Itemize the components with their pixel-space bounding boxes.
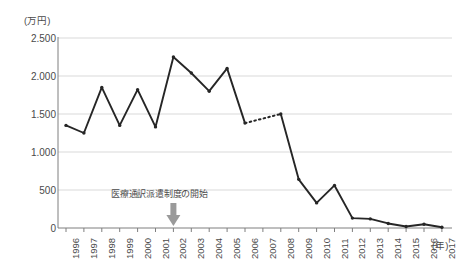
- x-axis-tick-label: 1998: [106, 238, 117, 259]
- x-axis-tick-label: 2013: [374, 238, 385, 259]
- x-axis-tick-label: 2016: [428, 238, 439, 259]
- x-axis-tick-label: 2009: [303, 238, 314, 259]
- x-axis-tick-label: 2010: [321, 238, 332, 259]
- x-axis-tick-label: 1997: [88, 238, 99, 259]
- x-axis-tick-labels: 1996199719981999200020012002200320042005…: [0, 0, 465, 278]
- line-chart: (万円) (年) 05001.0001.5002.0002.500 199619…: [0, 0, 465, 278]
- x-axis-tick-label: 2014: [392, 238, 403, 259]
- annotation-label: 医療通訳派遣制度の開始: [111, 187, 208, 200]
- x-axis-tick-label: 2012: [356, 238, 367, 259]
- x-axis-tick-label: 2002: [177, 238, 188, 259]
- x-axis-tick-label: 1999: [124, 238, 135, 259]
- x-axis-tick-label: 2011: [339, 239, 350, 259]
- x-axis-tick-label: 2004: [213, 238, 224, 259]
- x-axis-tick-label: 2008: [285, 238, 296, 259]
- x-axis-tick-label: 2003: [195, 238, 206, 259]
- x-axis-tick-label: 2005: [231, 238, 242, 259]
- x-axis-tick-label: 2001: [160, 238, 171, 259]
- x-axis-tick-label: 2007: [267, 238, 278, 259]
- x-axis-tick-label: 1996: [70, 238, 81, 259]
- x-axis-tick-label: 2015: [410, 238, 421, 259]
- x-axis-tick-label: 2006: [249, 238, 260, 259]
- x-axis-tick-label: 2000: [142, 238, 153, 259]
- x-axis-tick-label: 2017: [446, 238, 457, 259]
